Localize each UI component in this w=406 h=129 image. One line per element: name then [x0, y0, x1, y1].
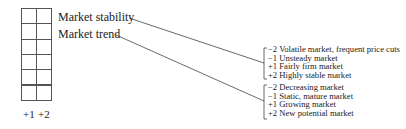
market-stability-options: −2 Volatile market, frequent price cuts …	[268, 45, 400, 79]
option: +2 Highly stable market	[268, 71, 400, 80]
option: +2 New potential market	[268, 109, 354, 118]
market-trend-options: −2 Decreasing market −1 Static, mature m…	[268, 83, 354, 117]
